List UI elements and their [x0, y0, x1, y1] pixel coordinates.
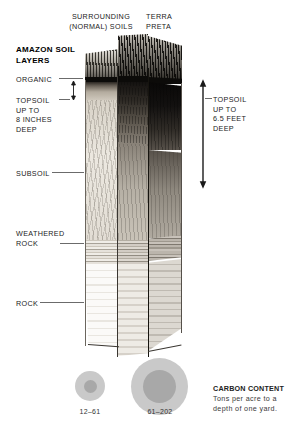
weathered-rock-layer-left [85, 240, 118, 264]
subsoil-layer-middle [118, 144, 148, 240]
layer-label-topsoil-left: TOPSOIL UP TO 8 INCHES DEEP [16, 96, 78, 134]
carbon-value-terra: 61–202 [139, 408, 181, 415]
column-header-terra-preta: TERRA PRETA [146, 12, 206, 31]
rock-layer-left [85, 264, 118, 348]
weathered-rock-layer-middle [118, 240, 148, 264]
soil-block-3d [84, 30, 184, 350]
carbon-value-normal: 12–61 [70, 408, 110, 415]
depth-arrow-right [201, 81, 205, 187]
layer-label-organic: ORGANIC [16, 75, 76, 85]
block-edge-left-middle [117, 76, 118, 357]
column-header-surrounding-soils: SURROUNDING (NORMAL) SOILS [63, 12, 139, 31]
subsoil-layer-left [85, 100, 118, 240]
topsoil-layer-middle [118, 82, 148, 144]
layer-label-topsoil-right: TOPSOIL UP TO 6.5 FEET DEEP [213, 95, 283, 133]
block-edge-outer-right [181, 83, 182, 333]
carbon-legend-subtitle: Tons per acre to a depth of one yard. [213, 394, 293, 413]
rock-layer-middle [118, 264, 148, 356]
weathered-rock-layer-right [148, 235, 182, 261]
grass-middle [118, 34, 148, 80]
topsoil-layer-left [85, 82, 118, 100]
block-edge-outer-left [85, 80, 86, 346]
carbon-circle-inner-terra [143, 370, 176, 403]
layer-label-rock: ROCK [16, 299, 76, 309]
layer-label-weathered-rock: WEATHERED ROCK [16, 229, 78, 248]
grass-left [85, 48, 118, 80]
rock-layer-right [148, 259, 182, 351]
soil-profile-diagram: SURROUNDING (NORMAL) SOILS TERRA PRETA A… [0, 0, 296, 443]
topsoil-layer-right [148, 82, 182, 150]
grass-right [148, 36, 182, 80]
carbon-legend-title: CARBON CONTENT [213, 384, 293, 394]
subsoil-layer-right [148, 150, 182, 238]
layer-label-subsoil: SUBSOIL [16, 169, 76, 179]
carbon-circle-inner-normal [84, 380, 97, 393]
block-edge-middle-right [148, 70, 149, 357]
